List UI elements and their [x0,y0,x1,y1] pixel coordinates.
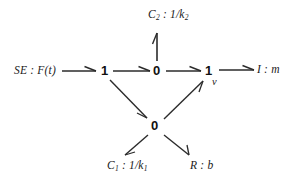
bond-se-to-one-left [62,67,96,72]
capacitor-top-value-subscript: 2 [185,13,189,22]
junction-zero-bottom: 0 [151,118,158,133]
inertia-label: I : m [257,63,280,75]
bond-zero-middle-to-one-right [166,67,201,72]
capacitor-top-label: C2 : 1/k2 [148,8,189,20]
bond-one-left-to-zero-middle [113,67,150,72]
capacitor-bottom-label: C1 : 1/k1 [107,159,148,171]
source-effort-label: SE : F(t) [14,64,56,76]
capacitor-bottom-subscript: 1 [115,164,119,173]
bond-graph-diagram: SE : F(t) C2 : 1/k2 I : m C1 : 1/k1 R : … [0,0,288,184]
junction-zero-middle: 0 [153,63,160,78]
capacitor-top-subscript: 2 [156,13,160,22]
bond-zero-bottom-to-one-right [164,81,203,119]
junction-one-left: 1 [101,63,108,78]
capacitor-bottom-value-subscript: 1 [144,164,148,173]
velocity-label: v [212,76,217,87]
capacitor-bottom-symbol: C [107,159,115,171]
capacitor-top-symbol: C [148,8,156,20]
resistor-label: R : b [190,159,213,171]
bond-zero-middle-to-c2 [153,33,158,61]
bond-lines-layer [0,0,288,184]
capacitor-top-value: : 1/k [160,8,185,20]
bond-one-right-to-inertia [219,66,254,71]
bond-zero-bottom-to-c1 [125,135,148,155]
bond-zero-bottom-to-resistor [164,135,189,155]
capacitor-bottom-value: : 1/k [119,159,144,171]
bond-one-left-to-zero-bottom [110,80,147,118]
